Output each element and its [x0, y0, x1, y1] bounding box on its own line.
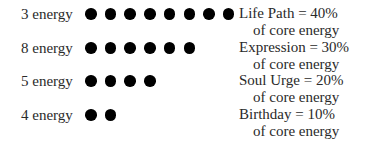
- core-energy-caption: of core energy: [239, 123, 339, 140]
- percentage-label: Birthday = 10% of core energy: [239, 106, 339, 140]
- dot-icon: [144, 8, 156, 20]
- dot-icon: [223, 8, 235, 20]
- core-number-percent: Expression = 30%: [239, 39, 349, 56]
- dot-icon: [85, 42, 97, 54]
- energy-label: 4 energy: [21, 106, 73, 124]
- energy-label: 5 energy: [21, 72, 73, 90]
- dot-icon: [105, 75, 117, 87]
- dot-icon: [105, 8, 117, 20]
- core-number-percent: Soul Urge = 20%: [239, 72, 343, 89]
- dot-icon: [124, 75, 136, 87]
- dot-icon: [85, 8, 97, 20]
- dot-icon: [164, 42, 176, 54]
- dot-icon: [164, 8, 176, 20]
- energy-label: 8 energy: [21, 39, 73, 57]
- dot-icon: [184, 42, 196, 54]
- dot-icon: [144, 42, 156, 54]
- core-number-percent: Life Path = 40%: [239, 5, 339, 22]
- row-soul-urge: 5 energy Soul Urge = 20% of core energy: [0, 67, 372, 101]
- dot-icon: [105, 42, 117, 54]
- dot-icon: [124, 8, 136, 20]
- dot-icon: [203, 8, 215, 20]
- dot-icon: [85, 109, 97, 121]
- dot-icon: [144, 75, 156, 87]
- energy-label: 3 energy: [21, 5, 73, 23]
- dot-icon: [85, 75, 97, 87]
- dot-icon: [105, 109, 117, 121]
- dot-icon: [124, 42, 136, 54]
- dot-icon: [184, 8, 196, 20]
- row-life-path: 3 energy Life Path = 40% of core energy: [0, 0, 372, 34]
- core-number-percent: Birthday = 10%: [239, 106, 339, 123]
- row-expression: 8 energy Expression = 30% of core energy: [0, 34, 372, 68]
- row-birthday: 4 energy Birthday = 10% of core energy: [0, 101, 372, 135]
